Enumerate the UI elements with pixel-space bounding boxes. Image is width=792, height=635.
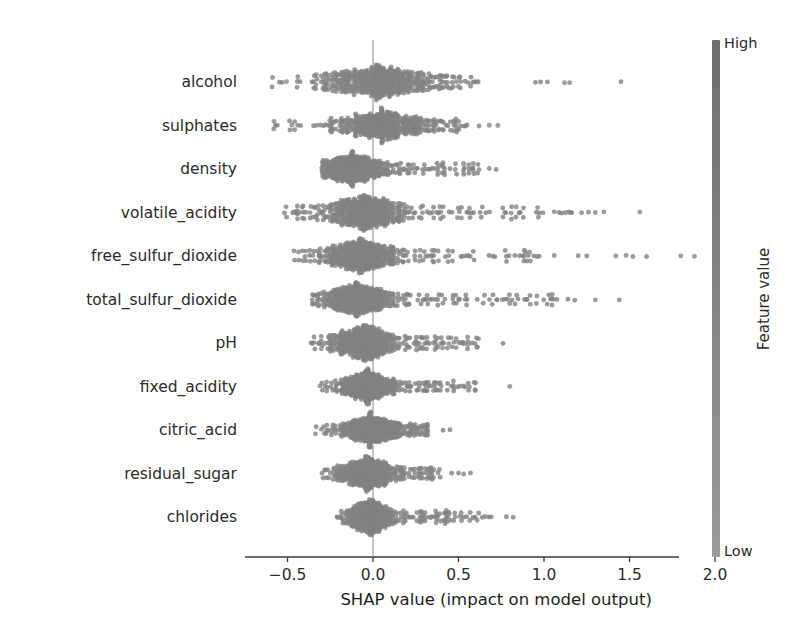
beeswarm-row bbox=[309, 323, 506, 363]
x-tick-label: 1.5 bbox=[617, 566, 642, 584]
beeswarm-row bbox=[335, 497, 516, 537]
x-tick-label: 2.0 bbox=[703, 566, 728, 584]
colorbar-low-label: Low bbox=[724, 543, 753, 559]
x-tick-label: −0.5 bbox=[269, 566, 307, 584]
feature-label-sulphates: sulphates bbox=[162, 117, 237, 135]
beeswarm-row bbox=[319, 149, 498, 189]
colorbar-title: Feature value bbox=[755, 247, 773, 349]
x-tick-label: 0.5 bbox=[446, 566, 471, 584]
feature-label-volatile_acidity: volatile_acidity bbox=[121, 204, 237, 222]
feature-label-density: density bbox=[180, 160, 237, 178]
beeswarm-row bbox=[310, 280, 622, 319]
feature-label-alcohol: alcohol bbox=[182, 73, 237, 91]
beeswarm-row bbox=[313, 410, 452, 450]
feature-label-residual_sugar: residual_sugar bbox=[124, 465, 237, 483]
feature-label-fixed_acidity: fixed_acidity bbox=[140, 378, 237, 396]
colorbar bbox=[712, 40, 720, 557]
feature-label-citric_acid: citric_acid bbox=[159, 421, 237, 439]
beeswarm-row bbox=[270, 63, 624, 103]
feature-label-total_sulfur_dioxide: total_sulfur_dioxide bbox=[86, 291, 237, 309]
beeswarm-row bbox=[292, 236, 697, 276]
x-tick-label: 0.0 bbox=[361, 566, 386, 584]
feature-label-chlorides: chlorides bbox=[167, 508, 237, 526]
axis-group bbox=[245, 557, 715, 562]
beeswarm-row bbox=[282, 193, 642, 233]
beeswarm-row bbox=[271, 105, 500, 145]
plot-canvas bbox=[0, 0, 792, 635]
shap-beeswarm-figure: alcoholsulphatesdensityvolatile_acidityf… bbox=[0, 0, 792, 635]
feature-label-pH: pH bbox=[216, 334, 238, 352]
colorbar-high-label: High bbox=[724, 35, 757, 51]
feature-label-free_sulfur_dioxide: free_sulfur_dioxide bbox=[91, 247, 237, 265]
beeswarm-row bbox=[318, 366, 513, 406]
x-axis-title: SHAP value (impact on model output) bbox=[340, 590, 651, 609]
x-tick-label: 1.0 bbox=[532, 566, 557, 584]
beeswarm-row bbox=[320, 454, 473, 494]
